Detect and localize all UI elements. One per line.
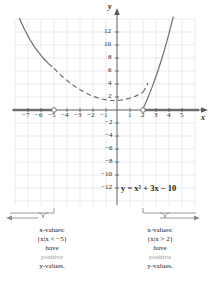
left-annotation: x-values: {x|x < −5} have positive y-val…: [2, 226, 102, 271]
right-arrowhead-icon: [194, 216, 200, 221]
ytick-label-8: 8: [108, 54, 112, 61]
left-annotation-line5: y-values.: [2, 262, 102, 271]
xtick-label-4: 4: [167, 112, 171, 119]
xtick-label-neg4: −4: [61, 112, 68, 119]
right-annotation-line1: x-values:: [112, 226, 208, 235]
xtick-label-1: 1: [128, 112, 132, 119]
xtick-label-neg5: −5: [48, 112, 55, 119]
left-annotation-line4: positive: [2, 253, 102, 262]
ytick-label-12: 12: [104, 28, 111, 35]
ytick-label-neg2: −2: [105, 119, 112, 126]
curve-left-solid: [19, 18, 52, 67]
xtick-label-neg6: −6: [35, 112, 42, 119]
y-axis-label: y: [108, 3, 112, 11]
left-annotation-line1: x-values:: [2, 226, 102, 235]
right-brace-tip: [160, 213, 170, 218]
right-annotation-line3: have: [112, 244, 208, 253]
xtick-label-neg7: −7: [22, 112, 29, 119]
ytick-label-neg8: −8: [105, 158, 112, 165]
right-annotation-line5: y-values.: [112, 262, 208, 271]
ytick-label-2: 2: [108, 93, 112, 100]
left-annotation-line3: have: [2, 244, 102, 253]
right-annotation: x-values: {x|x > 2} have positive y-valu…: [112, 226, 208, 271]
xtick-label-neg3: −3: [74, 112, 81, 119]
ytick-label-6: 6: [108, 67, 112, 74]
curve-middle-dashed: [54, 68, 143, 100]
y-axis-arrow: [114, 8, 120, 15]
left-arrowhead-icon: [6, 216, 12, 221]
xtick-label-neg2: −2: [87, 112, 94, 119]
xtick-label-5: 5: [180, 112, 184, 119]
x-axis-arrow: [201, 107, 208, 113]
equation-label: y = x² + 3x − 10: [121, 184, 176, 193]
left-brace-tip: [38, 213, 48, 218]
ytick-label-neg12: −12: [101, 184, 112, 191]
right-bracket: [143, 208, 196, 213]
right-annotation-line4: positive: [112, 253, 208, 262]
ytick-label-10: 10: [104, 41, 111, 48]
xtick-label-3: 3: [154, 112, 158, 119]
left-annotation-line2: {x|x < −5}: [2, 235, 102, 244]
ytick-label-neg10: −10: [101, 171, 112, 178]
ytick-label-4: 4: [108, 80, 112, 87]
curve-dashed-tail: [143, 83, 148, 92]
left-bracket: [10, 208, 54, 213]
ytick-label-neg4: −4: [105, 132, 112, 139]
ytick-label-neg6: −6: [105, 145, 112, 152]
x-axis-label: x: [201, 114, 205, 122]
right-annotation-line2: {x|x > 2}: [112, 235, 208, 244]
xtick-label-2: 2: [141, 112, 145, 119]
